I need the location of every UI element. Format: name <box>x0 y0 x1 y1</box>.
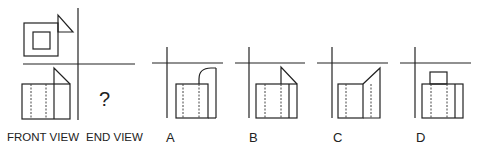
option-b-label[interactable]: B <box>249 131 258 144</box>
option-a-label[interactable]: A <box>166 131 175 144</box>
front-view-label: FRONT VIEW <box>7 132 79 144</box>
option-a-figure[interactable] <box>152 47 223 118</box>
unknown-end-view-mark: ? <box>99 89 110 109</box>
end-view-label: END VIEW <box>86 132 143 144</box>
front-view <box>22 68 70 119</box>
top-view <box>24 15 73 56</box>
option-d-figure[interactable] <box>400 47 471 118</box>
option-d-label[interactable]: D <box>416 131 425 144</box>
option-c-figure[interactable] <box>317 47 388 118</box>
option-c-label[interactable]: C <box>333 131 342 144</box>
question-axes <box>23 8 135 120</box>
option-b-figure[interactable] <box>235 47 305 118</box>
